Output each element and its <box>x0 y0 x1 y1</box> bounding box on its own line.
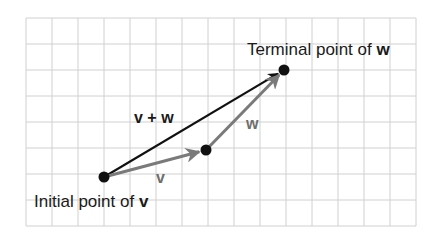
label-v: v <box>156 169 165 186</box>
terminal-point-dot <box>279 65 290 76</box>
vector-addition-diagram: v + w v w Initial point of v Terminal po… <box>0 0 433 239</box>
initial-point-text: Initial point of <box>34 192 139 211</box>
label-w: w <box>245 115 259 132</box>
terminal-point-vector: w <box>375 40 390 59</box>
terminal-point-text: Terminal point of <box>247 40 376 59</box>
label-initial-point: Initial point of v <box>34 192 149 211</box>
initial-point-vector: v <box>139 192 149 211</box>
label-terminal-point: Terminal point of w <box>247 40 390 59</box>
label-v-plus-w: v + w <box>134 109 174 126</box>
vector-v <box>104 152 199 177</box>
initial-point-dot <box>99 172 110 183</box>
vector-w <box>206 75 279 150</box>
middle-point-dot <box>201 145 212 156</box>
